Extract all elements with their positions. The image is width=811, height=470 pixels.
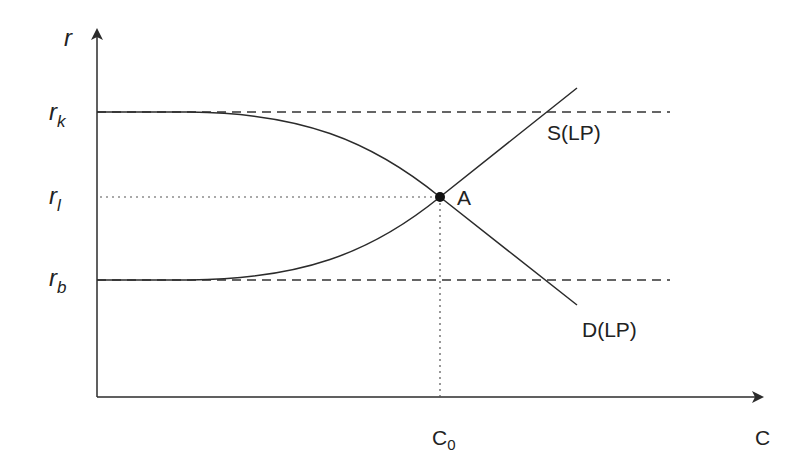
rb-base: r — [49, 264, 57, 291]
demand-label: D(LP) — [582, 319, 637, 340]
rk-sub: k — [57, 112, 66, 131]
demand-curve — [97, 112, 577, 305]
x-axis-label: C — [755, 427, 770, 448]
rk-label: rk — [49, 100, 66, 124]
c0-base: C — [432, 426, 447, 449]
c0-label: C0 — [432, 427, 456, 448]
rl-sub: l — [57, 196, 61, 215]
c0-sub: 0 — [447, 436, 455, 453]
rl-label: rl — [49, 184, 61, 208]
rb-sub: b — [57, 278, 66, 297]
supply-label: S(LP) — [547, 122, 601, 143]
rl-base: r — [49, 182, 57, 209]
supply-curve — [97, 88, 577, 280]
diagram-canvas — [0, 0, 811, 470]
rb-label: rb — [49, 266, 66, 290]
rk-base: r — [49, 98, 57, 125]
point-a-label: A — [457, 187, 471, 208]
y-axis-label: r — [64, 26, 72, 50]
equilibrium-point-a — [435, 192, 445, 202]
